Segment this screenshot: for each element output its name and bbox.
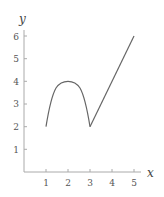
y-tick-label: 2 xyxy=(13,122,19,132)
x-axis-label: x xyxy=(147,166,154,180)
x-tick-label: 1 xyxy=(43,178,49,188)
y-tick-label: 6 xyxy=(13,32,19,42)
straight-line xyxy=(90,36,134,127)
y-tick-label: 5 xyxy=(13,54,19,64)
y-axis: 1 2 3 4 5 6 y xyxy=(13,12,27,172)
x-tick-label: 4 xyxy=(109,178,115,188)
y-tick-label: 3 xyxy=(13,99,19,109)
y-tick-label: 4 xyxy=(13,77,19,87)
x-tick-label: 2 xyxy=(65,178,71,188)
chart: 1 2 3 4 5 6 y 1 2 3 4 5 x xyxy=(0,0,164,197)
y-tick-label: 1 xyxy=(13,145,19,155)
plot-lines xyxy=(46,36,134,127)
y-axis-label: y xyxy=(18,12,26,26)
curve-arch xyxy=(46,81,90,126)
x-tick-label: 5 xyxy=(131,178,137,188)
x-axis: 1 2 3 4 5 x xyxy=(24,166,154,188)
x-tick-label: 3 xyxy=(87,178,93,188)
